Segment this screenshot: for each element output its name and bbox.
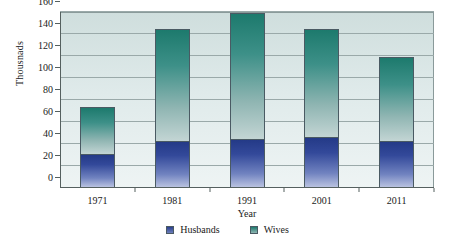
x-axis-title: Year [60, 208, 434, 219]
stacked-bar-chart: Thousnads 020406080100120140160 19711981… [0, 0, 455, 246]
legend-label: Wives [264, 224, 289, 235]
x-axis-tick-label: 2001 [312, 195, 332, 206]
legend-item-wives[interactable]: Wives [250, 224, 289, 235]
x-axis-tick-mark [134, 188, 135, 192]
x-axis-tick-mark [209, 188, 210, 192]
bar-segment-husbands[interactable] [304, 137, 339, 188]
x-axis-line [60, 187, 434, 188]
bar-group[interactable] [80, 107, 115, 188]
chart-legend: HusbandsWives [0, 224, 455, 235]
bar-segment-husbands[interactable] [80, 154, 115, 188]
x-axis-tick-mark [284, 188, 285, 192]
y-axis-tick-label: 100 [38, 62, 60, 73]
x-axis-tick-label: 1981 [162, 195, 182, 206]
bar-segment-husbands[interactable] [230, 139, 265, 189]
bar-segment-wives[interactable] [304, 29, 339, 138]
legend-swatch-icon [166, 226, 174, 234]
legend-item-husbands[interactable]: Husbands [166, 224, 219, 235]
bar-segment-wives[interactable] [230, 13, 265, 138]
bar-segment-wives[interactable] [80, 107, 115, 154]
y-axis-tick-label: 0 [48, 172, 60, 183]
bar-group[interactable] [155, 29, 190, 188]
y-axis-tick-label: 140 [38, 18, 60, 29]
bar-group[interactable] [304, 29, 339, 188]
y-axis-tick-label: 40 [43, 128, 60, 139]
x-axis-tick-mark [359, 188, 360, 192]
bar-group[interactable] [379, 57, 414, 188]
bar-segment-husbands[interactable] [379, 141, 414, 188]
y-axis-line [60, 12, 61, 188]
x-axis-tick-label: 1971 [87, 195, 107, 206]
y-axis-tick-label: 80 [43, 84, 60, 95]
y-axis-title: Thousnads [14, 19, 25, 109]
x-axis-tick-label: 1991 [237, 195, 257, 206]
legend-swatch-icon [250, 226, 258, 234]
bar-segment-wives[interactable] [155, 29, 190, 141]
bar-group[interactable] [230, 13, 265, 188]
y-axis-tick-label: 120 [38, 40, 60, 51]
x-axis-tick-label: 2011 [387, 195, 407, 206]
bar-series-container [60, 12, 434, 188]
plot-wrapper: 020406080100120140160 197119811991200120… [60, 12, 434, 188]
bar-segment-wives[interactable] [379, 57, 414, 141]
y-axis-tick-label: 160 [38, 0, 60, 7]
y-axis-tick-label: 20 [43, 150, 60, 161]
legend-label: Husbands [180, 224, 219, 235]
x-axis-tick-mark [434, 188, 435, 192]
y-axis-tick-label: 60 [43, 106, 60, 117]
bar-segment-husbands[interactable] [155, 141, 190, 188]
